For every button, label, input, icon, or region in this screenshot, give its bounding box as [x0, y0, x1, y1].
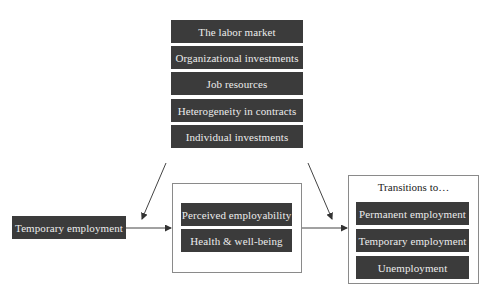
moderator-organizational-investments: Organizational investments — [171, 46, 303, 69]
moderator-job-resources: Job resources — [171, 72, 303, 95]
moderator-individual-investments: Individual investments — [171, 125, 303, 148]
mediator-health-well-being: Health & well-being — [181, 229, 292, 252]
moderator-labor-market: The labor market — [171, 20, 303, 43]
outcome-temporary-employment: Temporary employment — [356, 229, 469, 252]
outcome-permanent-employment: Permanent employment — [356, 202, 469, 225]
arrow-moderators-to-second-path — [308, 163, 332, 219]
moderator-heterogeneity-in-contracts: Heterogeneity in contracts — [171, 99, 303, 122]
mediators-frame — [172, 183, 302, 273]
outcome-unemployment: Unemployment — [356, 256, 469, 279]
arrow-moderators-to-first-path — [142, 163, 166, 219]
outcomes-title: Transitions to… — [348, 181, 479, 193]
mediator-perceived-employability: Perceived employability — [181, 203, 292, 226]
source-temporary-employment: Temporary employment — [12, 216, 126, 239]
